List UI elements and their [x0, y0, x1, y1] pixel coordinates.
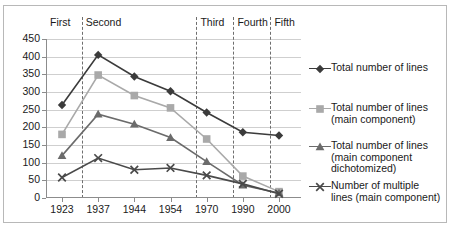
series-1 — [58, 51, 283, 140]
x-tick-mark — [207, 198, 208, 202]
period-label: First — [50, 16, 70, 28]
y-tick-label: 350 — [10, 68, 40, 79]
legend-label: Number of multiple lines (main component… — [331, 180, 440, 203]
legend-label: Total number of lines (main component) — [331, 102, 428, 125]
chart-frame: FirstSecondThirdFourthFifth 050100150200… — [3, 5, 447, 223]
legend-item-2[interactable]: Total number of lines (main component) — [309, 102, 428, 125]
legend-marker-glyph — [314, 103, 326, 115]
period-label: Second — [86, 16, 122, 28]
data-point-triangle — [316, 143, 325, 151]
x-tick-mark — [134, 198, 135, 202]
legend-marker-diamond-icon — [309, 63, 331, 75]
x-tick-mark — [98, 198, 99, 202]
data-point-square — [58, 131, 66, 139]
y-tick-label: 150 — [10, 139, 40, 150]
data-point-square — [167, 104, 175, 112]
data-point-triangle — [94, 110, 103, 118]
series-3 — [58, 110, 284, 196]
data-point-square — [131, 92, 139, 100]
y-tick-label: 100 — [10, 157, 40, 168]
legend-marker-glyph — [314, 141, 326, 153]
data-point-cross — [58, 174, 66, 182]
x-tick-label: 2000 — [257, 203, 301, 215]
x-tick-mark — [279, 198, 280, 202]
data-point-diamond — [202, 108, 210, 116]
data-point-diamond — [316, 65, 324, 73]
legend-item-4[interactable]: Number of multiple lines (main component… — [309, 180, 440, 203]
legend-item-3[interactable]: Total number of lines (main component di… — [309, 140, 428, 175]
data-point-diamond — [166, 87, 174, 95]
period-label: Fourth — [237, 16, 267, 28]
y-tick-label: 50 — [10, 174, 40, 185]
x-tick-mark — [171, 198, 172, 202]
period-label: Third — [200, 16, 224, 28]
period-label: Fifth — [274, 16, 294, 28]
data-point-cross — [94, 154, 102, 162]
y-tick-label: 300 — [10, 86, 40, 97]
legend-item-1[interactable]: Total number of lines — [309, 62, 428, 75]
legend-marker-square-icon — [309, 103, 331, 115]
series-layer — [46, 39, 301, 198]
data-point-square — [239, 172, 247, 180]
data-point-diamond — [239, 128, 247, 136]
y-tick-label: 0 — [10, 192, 40, 203]
data-point-square — [94, 71, 102, 79]
y-tick-label: 400 — [10, 51, 40, 62]
series-4 — [58, 154, 283, 197]
plot-area: 050100150200250300350400450 192319371944… — [46, 39, 301, 198]
data-point-square — [316, 105, 324, 113]
y-tick-mark — [42, 198, 46, 199]
y-tick-label: 200 — [10, 121, 40, 132]
legend-label: Total number of lines (main component di… — [331, 140, 428, 175]
data-point-square — [203, 135, 211, 143]
data-point-diamond — [130, 72, 138, 80]
legend-marker-glyph — [314, 63, 326, 75]
x-tick-mark — [62, 198, 63, 202]
legend-marker-glyph — [314, 181, 326, 193]
y-tick-label: 450 — [10, 33, 40, 44]
legend-label: Total number of lines — [331, 62, 428, 74]
data-point-cross — [316, 183, 324, 191]
x-tick-mark — [243, 198, 244, 202]
legend-marker-triangle-icon — [309, 141, 331, 153]
data-point-diamond — [275, 131, 283, 139]
legend-marker-cross-icon — [309, 181, 331, 193]
y-tick-label: 250 — [10, 104, 40, 115]
data-point-triangle — [202, 157, 211, 165]
